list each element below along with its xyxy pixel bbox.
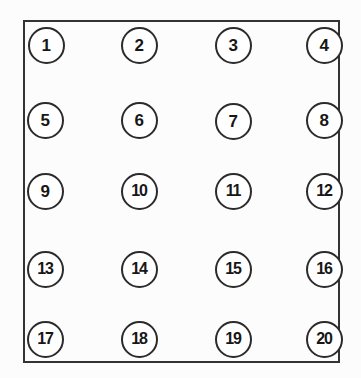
numbered-circle-label: 8 [320,112,329,129]
numbered-circle[interactable]: 11 [215,173,252,210]
numbered-circle[interactable]: 8 [306,102,343,139]
numbered-circle[interactable]: 1 [28,27,65,64]
numbered-circle[interactable]: 17 [27,321,64,358]
numbered-circle[interactable]: 10 [121,173,158,210]
numbered-circle-label: 1 [42,37,51,54]
numbered-circle[interactable]: 7 [215,103,252,140]
numbered-circle[interactable]: 2 [121,27,158,64]
numbered-circle[interactable]: 14 [121,251,158,288]
numbered-circle-label: 4 [320,37,329,54]
numbered-circle-label: 7 [229,113,238,130]
numbered-circle-label: 13 [37,261,52,277]
numbered-circle-label: 19 [225,331,240,347]
numbered-circle-label: 6 [135,112,144,129]
numbered-circle-label: 15 [225,261,240,277]
numbered-circle[interactable]: 13 [27,251,64,288]
numbered-circle[interactable]: 3 [215,27,252,64]
numbered-circle-label: 2 [135,37,144,54]
numbered-circle-label: 18 [131,331,146,347]
numbered-circle[interactable]: 20 [306,321,343,358]
numbered-circle-label: 5 [41,112,50,129]
numbered-circle-label: 12 [316,183,331,199]
numbered-circle[interactable]: 12 [306,173,343,210]
numbered-circle-label: 3 [229,37,238,54]
numbered-circle[interactable]: 16 [306,251,343,288]
numbered-circle[interactable]: 15 [215,251,252,288]
diagram-canvas: 1234567891011121314151617181920 [0,0,361,378]
numbered-circle-label: 9 [41,183,50,200]
numbered-circle[interactable]: 4 [306,27,343,64]
numbered-circle[interactable]: 19 [215,321,252,358]
numbered-circle-label: 16 [316,261,331,277]
numbered-circle[interactable]: 18 [121,321,158,358]
numbered-circle-label: 11 [226,183,241,199]
numbered-circle[interactable]: 5 [27,102,64,139]
numbered-circle-label: 20 [316,331,331,347]
numbered-circle[interactable]: 6 [121,102,158,139]
diagram-frame-border [23,20,340,363]
numbered-circle-label: 10 [131,183,146,199]
numbered-circle-label: 17 [37,331,52,347]
numbered-circle-label: 14 [131,261,146,277]
numbered-circle[interactable]: 9 [27,173,64,210]
